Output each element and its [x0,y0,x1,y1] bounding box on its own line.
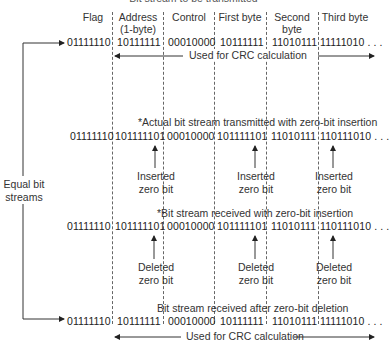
deleted-arrow [154,236,333,259]
equal-streams-bracket [23,43,64,319]
inserted-arrow [155,146,333,168]
